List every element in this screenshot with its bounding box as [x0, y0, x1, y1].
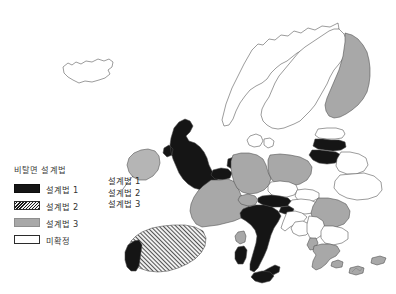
empty-white-swatch — [14, 235, 40, 244]
legend-item-undecided: 미확정 — [14, 232, 118, 247]
legend-item-method-2: 설계법 2 — [14, 198, 118, 213]
country-belarus — [336, 152, 368, 174]
legend-label-method-3: 설계법 3 — [46, 217, 78, 229]
country-estonia — [315, 128, 345, 139]
country-belgium — [211, 168, 232, 180]
europe-choropleth-figure: 비탈면 설계법 설계법 1 설계법 2 설계법 3 미확정 설계법 1 설계법 … — [0, 0, 396, 294]
legend-label-method-2: 설계법 2 — [46, 200, 78, 212]
legend-item-method-3: 설계법 3 — [14, 215, 118, 230]
legend-label-method-1: 설계법 1 — [46, 183, 78, 195]
map-callout-annotations: 설계법 1 설계법 2 설계법 3 — [108, 176, 141, 211]
solid-gray-swatch — [14, 218, 40, 227]
callout-line-2: 설계법 2 — [108, 188, 141, 200]
diagonal-hatch-swatch — [14, 201, 40, 210]
country-germany — [231, 153, 271, 194]
legend-item-method-1: 설계법 1 — [14, 181, 118, 196]
country-corsica — [235, 231, 246, 244]
country-sicily — [251, 271, 274, 283]
country-cyprus — [371, 256, 386, 265]
country-united-kingdom — [163, 119, 218, 190]
legend-title: 비탈면 설계법 — [14, 163, 118, 175]
country-ukraine — [334, 173, 382, 200]
country-switzerland — [238, 194, 258, 206]
country-lithuania — [309, 150, 341, 164]
country-greece — [312, 244, 364, 275]
country-denmark — [247, 134, 274, 148]
callout-line-1: 설계법 1 — [108, 176, 141, 188]
solid-black-swatch — [14, 184, 40, 193]
country-iceland — [63, 59, 113, 83]
country-latvia — [313, 139, 346, 151]
country-sardinia — [235, 246, 247, 264]
callout-line-3: 설계법 3 — [108, 199, 141, 211]
country-poland — [268, 154, 312, 186]
map-legend: 비탈면 설계법 설계법 1 설계법 2 설계법 3 미확정 — [14, 163, 118, 249]
country-italy — [240, 205, 281, 277]
country-bulgaria — [321, 226, 348, 245]
legend-label-undecided: 미확정 — [46, 234, 70, 246]
europe-map-svg — [0, 0, 396, 294]
